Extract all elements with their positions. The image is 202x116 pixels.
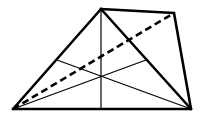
outline-edges [13,9,191,109]
diagonal-AC [13,13,174,109]
edge-AB [13,9,101,109]
dashed-diagonal [13,13,174,109]
edge-BD [101,9,191,109]
quadrilateral-diagram [0,0,202,116]
median-D-AB [57,60,191,109]
medians [13,9,191,109]
edge-BC [101,9,174,13]
